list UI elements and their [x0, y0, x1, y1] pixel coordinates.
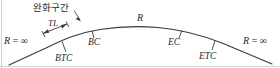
label-transition-length: TL [48, 19, 58, 28]
label-bc: BC [88, 38, 100, 48]
transition-curve-diagram: R = ∞ BTC BC R EC ETC R = ∞ TL 완화구간 [0, 0, 280, 68]
label-arc-radius: R [137, 13, 143, 23]
tl-arrow-head-right [61, 24, 67, 28]
label-left-radius-infinity: R = ∞ [4, 36, 28, 46]
label-ec: EC [168, 38, 180, 48]
label-btc: BTC [55, 54, 72, 64]
label-etc: ETC [199, 52, 216, 62]
tl-arrow-head-left [43, 29, 49, 33]
label-right-radius-infinity: R = ∞ [243, 36, 267, 46]
leader-line-btc [62, 42, 66, 53]
tl-tick-left [42, 31, 45, 37]
leader-arrow-transition-section [76, 17, 81, 22]
leader-line-etc [212, 41, 215, 51]
label-transition-section-korean: 완화구간 [33, 3, 69, 13]
